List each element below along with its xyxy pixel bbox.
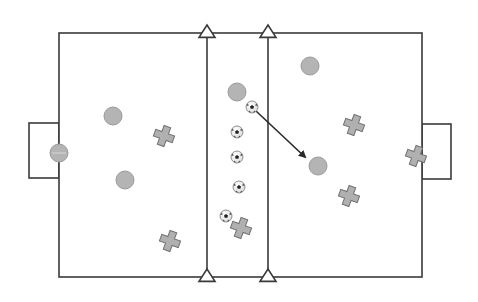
drill-diagram xyxy=(0,0,478,302)
player-circle xyxy=(301,57,319,75)
drill-canvas xyxy=(0,0,478,302)
player-circle xyxy=(104,107,122,125)
soccer-ball-icon xyxy=(231,151,243,163)
player-circle xyxy=(228,83,246,101)
goalkeeper-player xyxy=(50,144,68,162)
player-circle xyxy=(116,171,134,189)
soccer-ball-icon xyxy=(233,181,245,193)
goal-right xyxy=(422,124,451,179)
soccer-ball-icon xyxy=(231,126,243,138)
cone-marker-icon xyxy=(199,25,215,37)
cone-marker-icon xyxy=(260,25,276,37)
player-circle xyxy=(309,157,327,175)
soccer-ball-icon xyxy=(220,210,232,222)
soccer-ball-icon xyxy=(246,101,258,113)
